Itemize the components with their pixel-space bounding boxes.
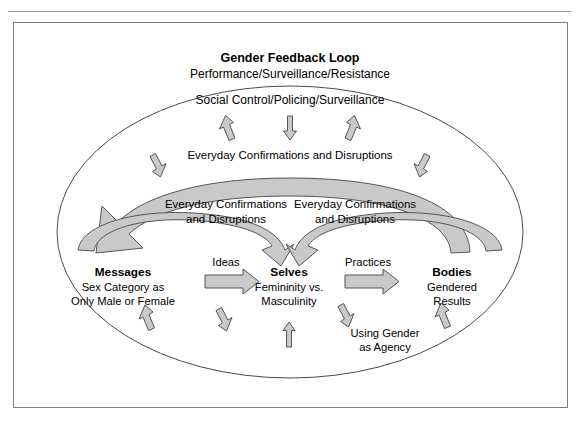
node-selves-line1: Femininity vs.: [255, 281, 323, 293]
arrow-up-under-selves: [283, 322, 295, 347]
node-bodies-line1: Gendered: [427, 281, 477, 293]
arrow-down-right-outerloop: [414, 154, 430, 178]
connector-practices-label: Practices: [345, 256, 391, 268]
inner-loop-left-label-line2: and Disruptions: [186, 213, 266, 225]
arrow-up-under-messages: [139, 305, 155, 331]
node-messages-heading: Messages: [95, 265, 152, 279]
arrow-down-left-outerloop: [150, 154, 166, 178]
figure-page: .arrowShape { fill: #c9c9c9; stroke: #55…: [0, 0, 581, 422]
node-bodies-line2: Results: [433, 295, 471, 307]
arrow-down-between-messages-selves: [216, 308, 232, 332]
arrow-down-center-top: [284, 116, 297, 140]
outer-loop-label: Everyday Confirmations and Disruptions: [187, 149, 392, 161]
agency-label-line1: Using Gender: [350, 327, 419, 339]
arrow-up-left-top: [220, 116, 236, 141]
node-messages-line2: Only Male or Female: [71, 295, 175, 307]
inner-loop-right-label-line2: and Disruptions: [315, 213, 395, 225]
arrow-up-right-top: [345, 116, 361, 141]
inner-loop-left-label-line1: Everyday Confirmations: [165, 198, 287, 210]
arrow-ideas-right: [205, 269, 259, 294]
node-messages-line1: Sex Category as: [82, 281, 165, 293]
node-bodies-heading: Bodies: [432, 265, 472, 279]
inner-loop-right-label-line1: Everyday Confirmations: [294, 198, 416, 210]
arrow-practices-right: [345, 269, 399, 294]
agency-label-line2: as Agency: [359, 341, 411, 353]
arrow-down-to-agency: [338, 304, 354, 328]
connector-ideas-label: Ideas: [212, 256, 240, 268]
node-selves-heading: Selves: [270, 265, 308, 279]
social-control-label: Social Control/Policing/Surveillance: [196, 93, 385, 107]
figure-subtitle: Performance/Surveillance/Resistance: [190, 67, 390, 81]
gender-feedback-loop-diagram: .arrowShape { fill: #c9c9c9; stroke: #55…: [0, 0, 581, 422]
node-selves-line2: Masculinity: [261, 295, 317, 307]
figure-title: Gender Feedback Loop: [221, 51, 360, 65]
